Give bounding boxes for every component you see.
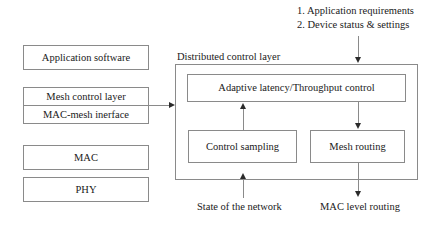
control-box-control-sampling: Control sampling — [188, 130, 297, 163]
top-input-arrow-shaft — [358, 36, 359, 58]
stack-box-mac-mesh-interface: MAC-mesh inerface — [23, 105, 149, 124]
diagram-canvas: 1. Application requirements 2. Device st… — [0, 0, 442, 231]
input-annotation-line-1: 1. Application requirements — [297, 4, 414, 17]
stack-box-mesh-control-layer-label: Mesh control layer — [46, 91, 125, 103]
adaptive-to-mesh-routing-arrow-shaft — [358, 102, 359, 124]
control-box-mesh-routing: Mesh routing — [310, 130, 405, 163]
control-sampling-to-adaptive-arrow-shaft — [243, 108, 244, 130]
network-state-arrow-head — [240, 173, 246, 179]
stack-box-application-software-label: Application software — [42, 52, 130, 64]
stack-box-mesh-control-layer: Mesh control layer — [23, 87, 149, 106]
stack-box-mac-label: MAC — [74, 152, 98, 164]
stack-box-application-software: Application software — [23, 45, 149, 70]
distributed-control-layer-title: Distributed control layer — [177, 50, 280, 63]
network-state-arrow-shaft — [243, 178, 244, 198]
control-box-control-sampling-label: Control sampling — [206, 141, 279, 153]
control-box-mesh-routing-label: Mesh routing — [329, 141, 385, 153]
stack-box-phy: PHY — [23, 177, 149, 202]
adaptive-to-mesh-routing-arrow-head — [355, 123, 361, 129]
input-annotation-line-2: 2. Device status & settings — [297, 18, 409, 31]
mac-level-routing-arrow-shaft — [358, 163, 359, 192]
control-box-adaptive-latency-throughput-control: Adaptive latency/Throughput control — [187, 74, 406, 102]
stack-box-mac: MAC — [23, 145, 149, 170]
bottom-output-label: MAC level routing — [320, 200, 400, 213]
top-input-arrow-head — [355, 57, 361, 63]
stack-box-mac-mesh-interface-label: MAC-mesh inerface — [43, 109, 129, 121]
stack-to-control-arrow-shaft — [149, 105, 170, 106]
control-sampling-to-adaptive-arrow-head — [240, 103, 246, 109]
control-box-adaptive-latency-throughput-control-label: Adaptive latency/Throughput control — [218, 82, 374, 94]
mac-level-routing-arrow-head — [355, 191, 361, 197]
stack-box-phy-label: PHY — [75, 184, 96, 196]
bottom-input-label: State of the network — [197, 200, 282, 213]
